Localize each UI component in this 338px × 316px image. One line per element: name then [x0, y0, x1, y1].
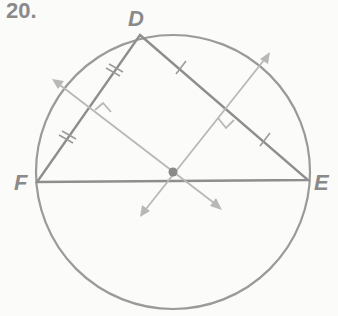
diagram: 20. D F E [0, 0, 338, 316]
geometry-figure [0, 0, 338, 316]
tick-marks-de [176, 61, 270, 146]
circumcenter-point [169, 168, 178, 177]
perpendicular-bisector-de [140, 52, 270, 217]
